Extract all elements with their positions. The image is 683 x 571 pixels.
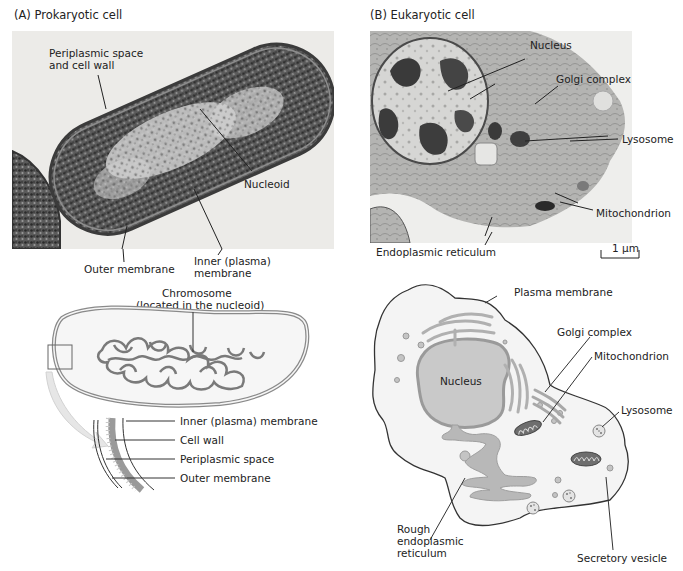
label-mitochondrion-diagram: Mitochondrion: [594, 350, 669, 362]
label-rough-er-l3: reticulum: [397, 547, 447, 559]
label-secretory-vesicle: Secretory vesicle: [577, 552, 667, 564]
label-golgi-diagram: Golgi complex: [557, 326, 632, 338]
label-nucleus-diagram: Nucleus: [440, 375, 482, 387]
label-lysosome-diagram: Lysosome: [621, 404, 673, 416]
label-rough-er-l2: endoplasmic: [397, 535, 464, 547]
label-rough-er-l1: Rough: [397, 523, 430, 535]
label-plasma-membrane: Plasma membrane: [514, 286, 613, 298]
